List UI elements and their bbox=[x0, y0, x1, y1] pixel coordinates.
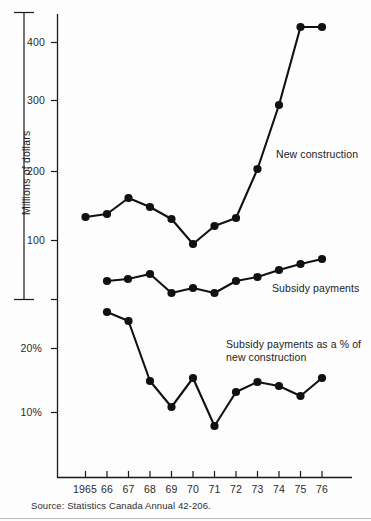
series-label-subsidy-payments: Subsidy payments bbox=[272, 282, 359, 295]
chart-figure: Millions of dollars 400 300 200 100 20% … bbox=[0, 0, 371, 521]
series-new-construction bbox=[81, 23, 326, 248]
y-tick-label-100: 100 bbox=[11, 234, 45, 246]
y-tick-label-10-percent: 10% bbox=[8, 406, 42, 418]
series-subsidy-percent bbox=[103, 308, 326, 430]
y-tick-label-20-percent: 20% bbox=[8, 342, 42, 354]
series-label-new-construction: New construction bbox=[276, 148, 358, 161]
x-tick-label-76: 76 bbox=[305, 483, 339, 495]
source-note: Source: Statistics Canada Annual 42-206. bbox=[31, 500, 211, 511]
chart-plot-area bbox=[0, 0, 371, 521]
series-label-subsidy-percent-line2: new construction bbox=[226, 351, 306, 364]
y-tick-label-300: 300 bbox=[11, 94, 45, 106]
series-label-subsidy-percent-line1: Subsidy payments as a % of bbox=[226, 338, 361, 351]
bottom-divider bbox=[0, 518, 371, 519]
y-tick-label-400: 400 bbox=[11, 36, 45, 48]
y-tick-label-200: 200 bbox=[11, 165, 45, 177]
